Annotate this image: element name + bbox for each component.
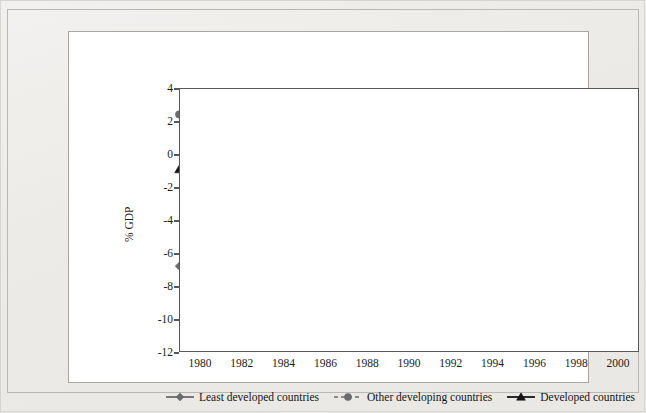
y-axis-tick-label: -2 (143, 181, 173, 193)
x-axis-tick-label: 1988 (356, 357, 379, 369)
page-root: % GDP 420-2-4-6-8-10-12 1980198219841986… (0, 0, 646, 413)
circle-marker (344, 393, 351, 400)
x-axis-tick-label: 1986 (314, 357, 337, 369)
legend-item[interactable]: Developed countries (506, 391, 635, 403)
x-axis-tick-label: 1980 (188, 357, 211, 369)
diamond-marker (176, 393, 184, 401)
legend-label: Least developed countries (199, 391, 319, 403)
legend-label: Other developing countries (367, 391, 492, 403)
y-axis-tick-label: 0 (143, 148, 173, 160)
x-axis-tick-label: 1998 (565, 357, 588, 369)
plot-area (179, 88, 639, 352)
plot-border (179, 88, 639, 352)
legend-label: Developed countries (540, 391, 635, 403)
y-axis-tick-label: -12 (143, 346, 173, 358)
x-axis-tick-label: 2000 (607, 357, 630, 369)
x-axis-tick-label: 1996 (523, 357, 546, 369)
x-axis-tick-label: 1990 (398, 357, 421, 369)
legend-key-circle-icon (333, 391, 363, 403)
y-axis-tick-label: 2 (143, 115, 173, 127)
x-axis-tick-label: 1994 (481, 357, 504, 369)
x-axis-tick-label: 1984 (272, 357, 295, 369)
x-axis-tick-label: 1992 (439, 357, 462, 369)
y-axis-tick-label: -8 (143, 280, 173, 292)
y-axis-title: % GDP (123, 207, 135, 242)
x-axis-tick-label: 1982 (230, 357, 253, 369)
y-axis-tick-label: 4 (143, 82, 173, 94)
y-axis-tick-label: -6 (143, 247, 173, 259)
y-axis-tick-mark (174, 352, 179, 354)
y-axis-tick-label: -4 (143, 214, 173, 226)
legend-key-triangle-icon (506, 391, 536, 403)
legend-key-diamond-icon (165, 391, 195, 403)
chart-legend: Least developed countriesOther developin… (165, 391, 635, 403)
chart-card: % GDP 420-2-4-6-8-10-12 1980198219841986… (68, 31, 589, 383)
y-axis-tick-label: -10 (143, 313, 173, 325)
legend-item[interactable]: Least developed countries (165, 391, 319, 403)
legend-item[interactable]: Other developing countries (333, 391, 492, 403)
